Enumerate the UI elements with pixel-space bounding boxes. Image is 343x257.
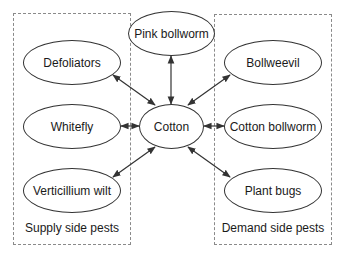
demand-side-label: Demand side pests (214, 221, 332, 235)
node-label: Bollweevil (246, 56, 299, 70)
node-label: Cotton (154, 120, 189, 134)
node-label: Defoliators (43, 56, 100, 70)
node-label: Cotton bollworm (230, 120, 317, 134)
node-verticillium-wilt[interactable]: Verticillium wilt (23, 168, 121, 213)
node-defoliators[interactable]: Defoliators (23, 40, 121, 85)
node-whitefly[interactable]: Whitefly (23, 104, 121, 149)
edge-cotton-plant-bugs (188, 147, 230, 177)
edge-cotton-bollweevil (188, 75, 230, 105)
node-cotton[interactable]: Cotton (139, 104, 204, 149)
supply-side-label: Supply side pests (13, 221, 131, 235)
node-cotton-bollworm[interactable]: Cotton bollworm (224, 104, 322, 149)
node-label: Plant bugs (245, 184, 302, 198)
node-bollweevil[interactable]: Bollweevil (224, 40, 322, 85)
node-pink-bollworm[interactable]: Pink bollworm (128, 11, 215, 56)
node-label: Verticillium wilt (33, 184, 111, 198)
node-plant-bugs[interactable]: Plant bugs (224, 168, 322, 213)
edge-cotton-verticillium-wilt (113, 147, 155, 177)
node-label: Pink bollworm (134, 27, 209, 41)
node-label: Whitefly (51, 120, 94, 134)
pest-diagram: Pink bollworm Defoliators Whitefly Verti… (0, 0, 343, 257)
edge-cotton-defoliators (113, 75, 155, 105)
